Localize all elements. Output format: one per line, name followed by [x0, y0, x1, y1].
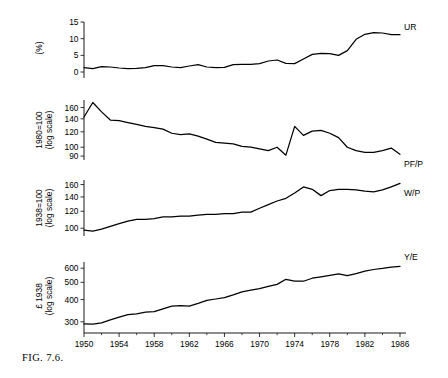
- y-tick-label-relative-price-of-fuel-3: 140: [65, 114, 79, 124]
- y-axis-label-output-per-head-0: £ 1938: [34, 283, 44, 309]
- y-tick-label-relative-price-of-fuel-2: 120: [65, 127, 79, 137]
- x-tick-label-1966: 1966: [215, 339, 234, 349]
- series-line-W-P: [84, 183, 400, 231]
- y-tick-label-real-wage-2: 140: [65, 192, 79, 202]
- series-label-output-per-head: Y/E: [404, 252, 418, 262]
- series-label-relative-price-of-fuel: PF/P: [404, 159, 423, 169]
- series-label-real-wage: W/P: [404, 188, 420, 198]
- y-tick-label-real-wage-1: 120: [65, 206, 79, 216]
- y-tick-label-output-per-head-1: 400: [65, 295, 79, 305]
- panel-relative-price-of-fuel: 901001201401601980=100(log scale)PF/P: [34, 100, 423, 169]
- series-label-unemployment-rate: UR: [404, 22, 416, 32]
- y-axis-label-real-wage-1: (log scale): [44, 188, 54, 227]
- y-axis-label-real-wage-0: 1938=100: [34, 189, 44, 227]
- y-axis-label-relative-price-of-fuel-0: 1980=100: [34, 111, 44, 149]
- x-tick-label-1970: 1970: [250, 339, 269, 349]
- y-tick-label-output-per-head-2: 500: [65, 277, 79, 287]
- y-tick-label-unemployment-rate-2: 10: [69, 34, 79, 44]
- y-tick-label-relative-price-of-fuel-4: 160: [65, 103, 79, 113]
- figure-caption: FIG. 7.6.: [22, 352, 64, 363]
- y-tick-label-relative-price-of-fuel-1: 100: [65, 142, 79, 152]
- y-tick-label-unemployment-rate-3: 15: [69, 17, 79, 27]
- x-tick-label-1950: 1950: [75, 339, 94, 349]
- series-line-UR: [84, 33, 400, 69]
- panel-unemployment-rate: 051015(%)UR: [34, 17, 416, 78]
- y-tick-label-output-per-head-3: 600: [65, 263, 79, 273]
- x-tick-label-1982: 1982: [356, 339, 375, 349]
- x-tick-label-1958: 1958: [145, 339, 164, 349]
- series-line-PF-P: [84, 102, 400, 155]
- x-tick-label-1978: 1978: [320, 339, 339, 349]
- y-tick-label-unemployment-rate-0: 0: [74, 67, 79, 77]
- panel-real-wage: 1001201401601938=100(log scale)W/P: [34, 180, 420, 236]
- y-axis-label-output-per-head-1: (log scale): [44, 276, 54, 315]
- y-tick-label-real-wage-3: 160: [65, 180, 79, 190]
- y-tick-label-unemployment-rate-1: 5: [74, 50, 79, 60]
- series-line-Y-E: [84, 266, 400, 324]
- multi-panel-line-chart: 051015(%)UR901001201401601980=100(log sc…: [0, 0, 448, 378]
- y-tick-label-real-wage-0: 100: [65, 223, 79, 233]
- x-tick-label-1974: 1974: [285, 339, 304, 349]
- x-axis: 1950195419581962196619701974197819821986: [75, 333, 410, 349]
- y-tick-label-relative-price-of-fuel-0: 90: [69, 151, 79, 161]
- panel-output-per-head: 300400500600£ 1938(log scale)Y/E: [34, 252, 418, 333]
- figure-caption-text: FIG. 7.6.: [22, 352, 64, 363]
- x-tick-label-1962: 1962: [180, 339, 199, 349]
- y-axis-label-unemployment-rate-0: (%): [34, 41, 44, 54]
- x-tick-label-1954: 1954: [110, 339, 129, 349]
- y-axis-label-relative-price-of-fuel-1: (log scale): [44, 110, 54, 149]
- figure-7-6: 051015(%)UR901001201401601980=100(log sc…: [0, 0, 448, 378]
- x-tick-label-1986: 1986: [391, 339, 410, 349]
- y-tick-label-output-per-head-0: 300: [65, 317, 79, 327]
